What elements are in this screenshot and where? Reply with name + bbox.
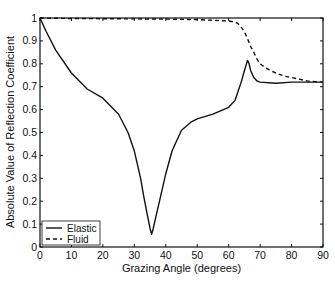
plot-frame bbox=[40, 18, 323, 247]
x-axis-label: Grazing Angle (degrees) bbox=[122, 262, 241, 274]
x-tick-label: 70 bbox=[254, 249, 266, 261]
y-tick-label: 0.3 bbox=[22, 172, 37, 184]
x-tick-label: 50 bbox=[191, 249, 203, 261]
y-tick-label: 0.2 bbox=[22, 195, 37, 207]
y-tick-label: 0 bbox=[31, 241, 37, 253]
y-tick-label: 0.9 bbox=[22, 34, 37, 46]
x-tick-label: 20 bbox=[97, 249, 109, 261]
x-tick-label: 40 bbox=[160, 249, 172, 261]
x-tick-label: 90 bbox=[317, 249, 329, 261]
y-tick-label: 0.6 bbox=[22, 103, 37, 115]
legend: Elastic Fluid bbox=[42, 221, 100, 245]
y-tick-label: 0.5 bbox=[22, 126, 37, 138]
legend-elastic-label: Elastic bbox=[67, 223, 96, 234]
y-tick-label: 0.4 bbox=[22, 149, 37, 161]
reflection-coefficient-chart: 0102030405060708090 00.10.20.30.40.50.60… bbox=[0, 0, 335, 285]
x-tick-label: 80 bbox=[286, 249, 298, 261]
x-tick-label: 0 bbox=[37, 249, 43, 261]
y-tick-label: 0.8 bbox=[22, 57, 37, 69]
x-tick-label: 10 bbox=[66, 249, 78, 261]
y-tick-label: 1 bbox=[31, 12, 37, 24]
y-tick-label: 0.7 bbox=[22, 80, 37, 92]
y-axis-label: Absolute Value of Reflection Coefficient bbox=[4, 36, 16, 228]
legend-fluid-label: Fluid bbox=[67, 234, 89, 245]
x-tick-label: 30 bbox=[128, 249, 140, 261]
y-tick-label: 0.1 bbox=[22, 218, 37, 230]
plot-area bbox=[40, 18, 323, 247]
x-tick-label: 60 bbox=[223, 249, 235, 261]
